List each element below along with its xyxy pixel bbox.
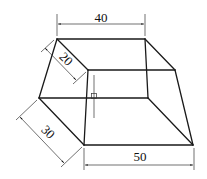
center-axis: [92, 75, 97, 118]
top-face: [57, 39, 175, 70]
dim-label-20: 20: [56, 49, 76, 69]
dimension-top-width: 40: [57, 10, 145, 36]
dimension-bottom-width: 50: [84, 148, 194, 170]
bottom-face: [39, 98, 193, 145]
frustum-drawing: 40 20 30 50: [0, 0, 207, 179]
dim-label-50: 50: [134, 149, 147, 164]
technical-drawing: 40 20 30 50: [0, 0, 207, 179]
dim-label-40: 40: [95, 10, 108, 25]
